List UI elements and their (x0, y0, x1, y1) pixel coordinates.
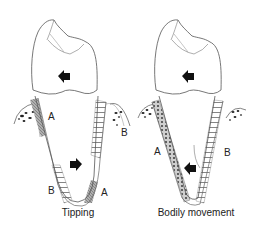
label-tipping-lower-left: B (48, 186, 55, 196)
label-tipping-upper-right: B (121, 128, 128, 138)
alveolar-bone-right (106, 103, 130, 126)
caption-bodily-movement: Bodily movement (158, 207, 235, 218)
alveolar-bone-left-2 (138, 104, 154, 118)
root-movement-arrow-right (70, 158, 82, 171)
compression-zone-upper-left (30, 98, 46, 137)
tooth-tipping (32, 20, 98, 202)
bodily-panel (138, 20, 246, 205)
tooth-movement-diagram: A B B A Tipping A B Bodily movement (0, 0, 265, 228)
alveolar-bone-right-2 (226, 108, 246, 121)
tipping-panel (14, 20, 130, 206)
tension-zone-upper-right (91, 100, 106, 158)
root-movement-arrow-left (184, 162, 196, 175)
label-bodily-left: A (154, 147, 161, 157)
caption-tipping: Tipping (62, 207, 94, 218)
label-bodily-right: B (224, 148, 231, 158)
diagram-drawing (0, 0, 265, 228)
label-tipping-lower-right: A (101, 188, 108, 198)
label-tipping-upper-left: A (48, 112, 55, 122)
